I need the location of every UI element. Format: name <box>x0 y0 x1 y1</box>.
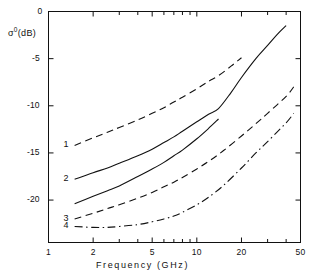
axis-ticks <box>49 12 301 243</box>
plot-frame <box>49 12 301 243</box>
data-curves <box>75 26 294 228</box>
curve-1 <box>75 58 242 146</box>
curve-3-solid <box>75 119 219 204</box>
plot-area <box>0 0 314 276</box>
chart-figure: σ0(dB) 0 -5 -10 -15 -20 1 2 5 10 20 50 1… <box>0 0 314 276</box>
curve-3 <box>75 87 294 219</box>
curve-2 <box>75 26 287 180</box>
